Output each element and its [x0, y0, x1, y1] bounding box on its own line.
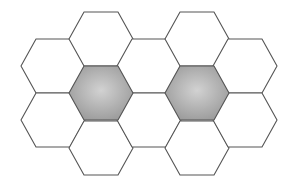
hexagon-grid-diagram: [0, 0, 292, 185]
hexagon-layer: [21, 12, 277, 175]
